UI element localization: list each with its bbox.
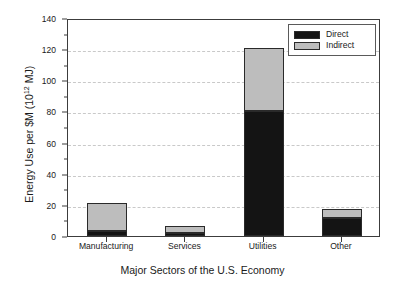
x-tick-label-utilities: Utilities — [249, 241, 277, 251]
y-tick-label: 140 — [42, 15, 56, 24]
y-tick-label: 60 — [47, 139, 56, 148]
legend-swatch-indirect — [294, 42, 320, 50]
legend-swatch-direct — [294, 31, 320, 39]
gridline — [68, 145, 379, 146]
bar-segment-direct — [322, 218, 362, 236]
x-tick-label-services: Services — [168, 241, 201, 251]
legend-label-indirect: Indirect — [326, 41, 354, 50]
y-tick-label: 20 — [47, 202, 56, 211]
bar-services — [165, 226, 205, 236]
y-tick-label: 80 — [47, 108, 56, 117]
gridline — [68, 113, 379, 114]
bar-segment-direct — [165, 233, 205, 236]
y-tick-label: 120 — [42, 46, 56, 55]
bar-segment-indirect — [87, 203, 127, 232]
legend-item-indirect: Indirect — [294, 40, 370, 51]
x-axis-title: Major Sectors of the U.S. Economy — [0, 264, 405, 276]
bar-other — [322, 209, 362, 236]
bar-segment-direct — [87, 231, 127, 236]
y-tick-label: 100 — [42, 77, 56, 86]
legend-label-direct: Direct — [326, 30, 348, 39]
bar-segment-direct — [244, 111, 284, 236]
x-tick-label-other: Other — [330, 241, 352, 251]
bar-manufacturing — [87, 203, 127, 236]
chart-figure: Energy Use per $M (1012 MJ) 020406080100… — [0, 0, 405, 287]
bar-segment-indirect — [244, 48, 284, 112]
gridline — [68, 82, 379, 83]
bar-segment-indirect — [322, 209, 362, 218]
bar-segment-indirect — [165, 226, 205, 233]
bar-utilities — [244, 48, 284, 236]
x-tick-label-manufacturing: Manufacturing — [79, 241, 133, 251]
y-axis: 020406080100120140 — [0, 0, 67, 287]
gridline — [68, 176, 379, 177]
y-tick-label: 40 — [47, 170, 56, 179]
chart-legend: DirectIndirect — [288, 24, 376, 56]
legend-item-direct: Direct — [294, 29, 370, 40]
y-tick-label: 0 — [51, 233, 56, 242]
